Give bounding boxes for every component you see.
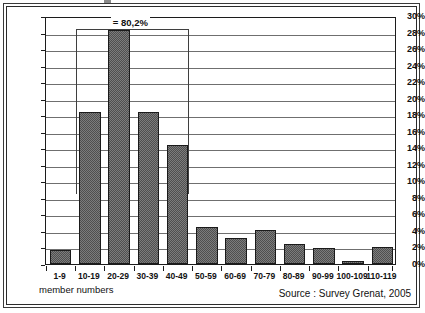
- bracket-annotation: [76, 29, 189, 194]
- y-axis-tick-label: 8%: [387, 194, 425, 203]
- y-axis-tick-label: 14%: [387, 144, 425, 153]
- y-axis-tick-mark: [41, 17, 45, 18]
- y-axis-tick-mark: [41, 34, 45, 35]
- chart-screenshot: 0%2%4%6%8%10%12%14%16%18%20%22%24%26%28%…: [0, 0, 425, 313]
- y-axis-tick-label: 20%: [387, 95, 425, 104]
- source-note: Source : Survey Grenat, 2005: [279, 288, 411, 299]
- y-axis-tick-mark: [41, 232, 45, 233]
- y-axis-tick-mark: [41, 133, 45, 134]
- y-axis-tick-label: 10%: [387, 177, 425, 186]
- y-axis-tick-mark: [41, 182, 45, 183]
- y-axis-tick-mark: [41, 149, 45, 150]
- y-axis-tick-mark: [41, 116, 45, 117]
- y-axis-tick-label: 12%: [387, 161, 425, 170]
- y-axis-tick-label: 30%: [387, 12, 425, 21]
- bar: [313, 248, 335, 264]
- bar: [50, 250, 72, 264]
- y-axis-tick-label: 26%: [387, 45, 425, 54]
- y-axis-tick-mark: [41, 83, 45, 84]
- bar: [196, 227, 218, 264]
- y-axis-tick-mark: [41, 166, 45, 167]
- y-axis-tick-mark: [41, 100, 45, 101]
- y-axis-tick-mark: [41, 50, 45, 51]
- y-axis-tick-mark: [41, 265, 45, 266]
- y-axis-tick-label: 22%: [387, 78, 425, 87]
- bar: [255, 230, 277, 264]
- y-axis-tick-mark: [41, 215, 45, 216]
- bar: [225, 238, 247, 264]
- bar: [284, 244, 306, 264]
- x-axis-tick-label: 110-119: [363, 271, 400, 281]
- bar: [342, 261, 364, 264]
- bracket-annotation-label: = 80,2%: [111, 17, 150, 28]
- x-axis-title: member numbers: [39, 284, 113, 295]
- y-axis-tick-label: 4%: [387, 227, 425, 236]
- y-axis-tick-mark: [41, 67, 45, 68]
- y-axis-tick-label: 16%: [387, 128, 425, 137]
- y-axis-tick-mark: [41, 248, 45, 249]
- x-axis-tick-mark: [392, 266, 393, 271]
- y-axis-tick-mark: [41, 199, 45, 200]
- y-axis-tick-label: 28%: [387, 29, 425, 38]
- y-axis-tick-label: 24%: [387, 62, 425, 71]
- y-axis-tick-label: 6%: [387, 210, 425, 219]
- y-axis-tick-label: 18%: [387, 111, 425, 120]
- y-axis-tick-label: 2%: [387, 243, 425, 252]
